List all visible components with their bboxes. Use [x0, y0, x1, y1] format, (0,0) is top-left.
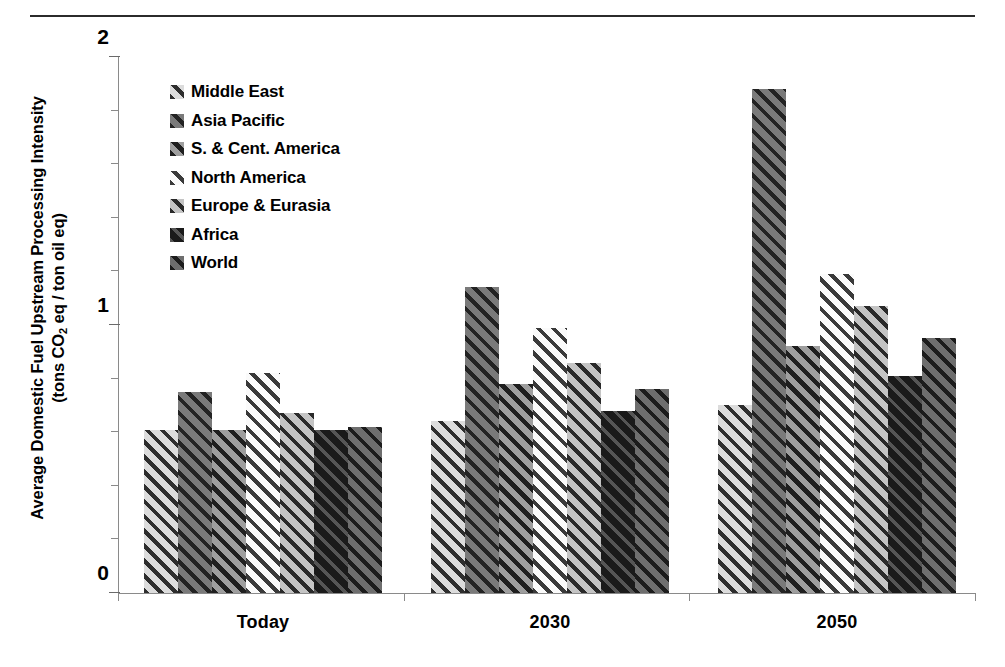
bar-middle-east: [144, 430, 178, 593]
legend-item-middle-east: Middle East: [170, 78, 340, 107]
bar-group-bars: [718, 57, 956, 593]
x-axis-label-2050: 2050: [718, 612, 956, 633]
y-tick-label: 2: [97, 26, 109, 47]
y-axis-title-subscript: 2: [57, 328, 69, 334]
y-tick-label: 1: [97, 294, 109, 315]
bar-north-america: [246, 373, 280, 593]
legend-swatch-asia-pacific: [170, 114, 184, 128]
y-axis-title: Average Domestic Fuel Upstream Processin…: [0, 28, 96, 588]
bar-group-2030: 2030: [431, 57, 669, 593]
legend-label-world: World: [191, 253, 238, 273]
legend-swatch-africa: [170, 228, 184, 242]
bar-europe-and-eurasia: [854, 306, 888, 593]
legend-item-africa: Africa: [170, 221, 340, 250]
legend-label-s-and-cent-america: S. & Cent. America: [191, 139, 340, 159]
bar-asia-pacific: [752, 89, 786, 593]
bar-s-and-cent-america: [212, 430, 246, 593]
x-tick: [975, 593, 976, 601]
legend-item-north-america: North America: [170, 164, 340, 193]
chart-legend: Middle EastAsia PacificS. & Cent. Americ…: [170, 78, 340, 278]
bar-asia-pacific: [465, 287, 499, 593]
y-tick-minor: [111, 217, 119, 218]
bar-middle-east: [718, 405, 752, 593]
y-tick-minor: [111, 485, 119, 486]
legend-swatch-middle-east: [170, 85, 184, 99]
header-divider: [30, 15, 975, 17]
y-axis-line: [118, 56, 119, 594]
y-tick-minor: [111, 110, 119, 111]
bar-asia-pacific: [178, 392, 212, 593]
bar-world: [635, 389, 669, 593]
bar-africa: [314, 430, 348, 593]
y-axis-title-line1: Average Domestic Fuel Upstream Processin…: [27, 96, 48, 519]
bar-group-bars: [431, 57, 669, 593]
y-tick-minor: [111, 538, 119, 539]
y-tick-minor: [111, 163, 119, 164]
y-tick-minor: [111, 431, 119, 432]
bar-world: [348, 427, 382, 593]
legend-swatch-north-america: [170, 171, 184, 185]
legend-item-europe-and-eurasia: Europe & Eurasia: [170, 192, 340, 221]
bar-africa: [601, 411, 635, 593]
y-tick-major: [109, 324, 120, 326]
y-tick-major: [109, 56, 120, 58]
legend-swatch-europe-and-eurasia: [170, 199, 184, 213]
y-tick-minor: [111, 378, 119, 379]
legend-swatch-s-and-cent-america: [170, 142, 184, 156]
bar-north-america: [533, 328, 567, 593]
bar-north-america: [820, 274, 854, 593]
x-axis-line: [118, 593, 975, 594]
bar-world: [922, 338, 956, 593]
legend-label-north-america: North America: [191, 168, 306, 188]
legend-item-s-and-cent-america: S. & Cent. America: [170, 135, 340, 164]
x-axis-label-today: Today: [144, 612, 382, 633]
y-axis-title-line2-post: eq / ton oil eq): [49, 213, 67, 328]
x-tick: [404, 593, 405, 601]
legend-label-middle-east: Middle East: [191, 82, 284, 102]
legend-swatch-world: [170, 256, 184, 270]
bar-group-2050: 2050: [718, 57, 956, 593]
bar-europe-and-eurasia: [280, 413, 314, 593]
legend-label-asia-pacific: Asia Pacific: [191, 111, 285, 131]
x-tick: [118, 593, 119, 601]
legend-item-world: World: [170, 249, 340, 278]
bar-middle-east: [431, 421, 465, 593]
legend-label-europe-and-eurasia: Europe & Eurasia: [191, 196, 330, 216]
y-tick-minor: [111, 270, 119, 271]
y-axis-title-line2: (tons CO2 eq / ton oil eq): [48, 96, 69, 519]
bar-africa: [888, 376, 922, 593]
y-tick-label: 0: [97, 562, 109, 583]
legend-item-asia-pacific: Asia Pacific: [170, 107, 340, 136]
bar-s-and-cent-america: [499, 384, 533, 593]
x-axis-label-2030: 2030: [431, 612, 669, 633]
bar-s-and-cent-america: [786, 346, 820, 593]
legend-label-africa: Africa: [191, 225, 238, 245]
bar-europe-and-eurasia: [567, 363, 601, 593]
x-tick: [689, 593, 690, 601]
chart-figure: Average Domestic Fuel Upstream Processin…: [0, 0, 1005, 667]
y-axis-title-line2-pre: (tons CO: [49, 334, 67, 403]
